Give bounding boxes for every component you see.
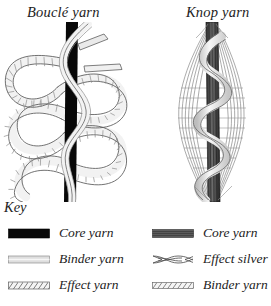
swatch-diagonal-hatch-bar-knop-icon — [152, 280, 194, 291]
key-label-effect-silver: Effect silver — [203, 252, 268, 266]
key-item-effect-yarn: Effect yarn — [8, 274, 144, 296]
swatch-dark-gray-bar-icon — [152, 228, 194, 239]
key-label-core-yarn: Core yarn — [59, 226, 114, 240]
knop-yarn-illustration — [150, 22, 271, 202]
key-label-core-yarn-knop: Core yarn — [203, 226, 258, 240]
swatch-solid-black-bar-icon — [8, 228, 50, 239]
key-item-core-yarn-knop: Core yarn — [152, 222, 271, 244]
boucle-yarn-illustration — [0, 22, 146, 202]
boucle-loose-ends — [78, 34, 122, 72]
key-column-left: Core yarn Binder yarn — [8, 222, 144, 300]
panel-title-knop: Knop yarn — [186, 4, 249, 21]
panel-title-boucle: Bouclé yarn — [27, 4, 100, 21]
key-item-effect-silver: Effect silver — [152, 248, 271, 270]
yarn-structure-figure: Bouclé yarn Knop yarn — [0, 0, 271, 306]
key-label-effect-yarn: Effect yarn — [59, 278, 119, 292]
key-label-binder-yarn-knop: Binder yarn — [203, 278, 268, 292]
key-item-core-yarn: Core yarn — [8, 222, 144, 244]
swatch-crossed-strands-bar-icon — [152, 254, 194, 265]
swatch-diagonal-hatch-bar-icon — [8, 280, 50, 291]
key-item-binder-yarn-knop: Binder yarn — [152, 274, 271, 296]
swatch-light-gray-bar-icon — [8, 254, 50, 265]
key-heading: Key — [4, 199, 27, 216]
key-column-right: Core yarn Effect silver — [152, 222, 271, 300]
key-item-binder-yarn: Binder yarn — [8, 248, 144, 270]
key-label-binder-yarn: Binder yarn — [59, 252, 124, 266]
